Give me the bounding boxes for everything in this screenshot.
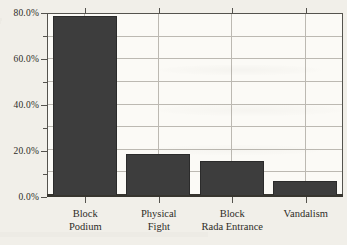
category-label: PhysicalFight bbox=[141, 207, 177, 233]
x-tick bbox=[306, 197, 307, 203]
gridline-vertical bbox=[305, 14, 306, 195]
category-label: BlockRada Entrance bbox=[201, 207, 263, 233]
category-label: BlockPodium bbox=[69, 207, 102, 233]
bar-physical-fight bbox=[126, 154, 190, 195]
y-tick-label: 60.0% bbox=[13, 54, 39, 64]
y-axis: 0.0%20.0%40.0%60.0%80.0% bbox=[0, 13, 47, 197]
y-tick-label: 20.0% bbox=[13, 146, 39, 156]
x-tick bbox=[85, 197, 86, 203]
bar-chart-figure: 0.0%20.0%40.0%60.0%80.0% BlockPodiumPhys… bbox=[0, 0, 347, 245]
x-top-tick bbox=[85, 8, 86, 13]
x-tick bbox=[232, 197, 233, 203]
x-tick bbox=[159, 197, 160, 203]
category-label: Vandalism bbox=[284, 207, 328, 220]
bar-vandalism bbox=[273, 181, 337, 195]
y-tick-label: 80.0% bbox=[13, 8, 39, 18]
y-tick-label: 40.0% bbox=[13, 100, 39, 110]
plot-area bbox=[47, 13, 343, 196]
y-major-tick bbox=[41, 197, 47, 198]
x-top-tick bbox=[159, 8, 160, 13]
x-top-tick bbox=[232, 8, 233, 13]
y-tick-label: 0.0% bbox=[18, 192, 39, 202]
bar-block-podium bbox=[53, 16, 117, 195]
x-top-tick bbox=[306, 8, 307, 13]
bar-block-rada-entrance bbox=[200, 161, 264, 195]
